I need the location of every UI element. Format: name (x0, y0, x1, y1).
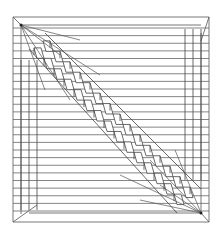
corner-rays (21, 25, 201, 213)
focal-point-dot (200, 212, 203, 215)
diagram-canvas (0, 0, 221, 234)
focal-point-dot (20, 24, 23, 27)
geometric-line-drawing (0, 0, 221, 234)
